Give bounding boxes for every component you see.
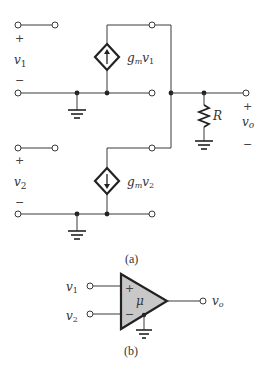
input-port-1: + v1 − bbox=[14, 22, 58, 87]
figure-b-caption: (b) bbox=[124, 344, 138, 358]
port2-top-right-terminal bbox=[52, 145, 58, 151]
figure-a-caption: (a) bbox=[125, 252, 138, 266]
port1-top-right-terminal bbox=[52, 22, 58, 28]
output-plus-sign: + bbox=[243, 100, 252, 113]
output-voltage-label: vo bbox=[242, 115, 255, 130]
port1-bottom-right-terminal bbox=[149, 90, 155, 96]
amp-input1-label: v1 bbox=[66, 280, 78, 295]
port1-minus-sign: − bbox=[15, 74, 24, 87]
amp-gain-label: μ bbox=[136, 294, 144, 308]
ground-symbol-2 bbox=[68, 214, 86, 239]
amp-output-terminal bbox=[200, 298, 206, 304]
source2-node bbox=[105, 212, 110, 217]
source2-label: gmv2 bbox=[127, 175, 154, 190]
amp-input1-terminal bbox=[87, 283, 93, 289]
port1-top-left-terminal bbox=[15, 22, 21, 28]
port1-voltage-label: v1 bbox=[14, 53, 27, 69]
port1-plus-sign: + bbox=[15, 32, 24, 45]
amp-input2-label: v2 bbox=[66, 309, 78, 324]
dependent-current-source-2 bbox=[95, 168, 119, 194]
resistor bbox=[195, 93, 213, 149]
port2-bottom-right-terminal bbox=[149, 211, 155, 217]
amp-output-label: vo bbox=[212, 294, 224, 309]
source2-top-terminal bbox=[149, 145, 155, 151]
dependent-current-source-1 bbox=[95, 44, 119, 70]
amp-plus-sign: + bbox=[125, 282, 134, 295]
port2-plus-sign: + bbox=[15, 154, 24, 167]
ground-symbol-1 bbox=[68, 93, 86, 118]
figure-b: v1 v2 + − μ vo (b) bbox=[66, 274, 224, 358]
circuit-diagram: + v1 − gmv1 bbox=[0, 0, 264, 374]
amp-minus-sign: − bbox=[125, 308, 134, 321]
port1-bottom-left-terminal bbox=[15, 90, 21, 96]
amp-input2-terminal bbox=[87, 311, 93, 317]
output-minus-sign: − bbox=[243, 138, 252, 151]
port2-bottom-left-terminal bbox=[15, 211, 21, 217]
source1-top-terminal bbox=[149, 22, 155, 28]
port2-voltage-label: v2 bbox=[14, 175, 27, 191]
input-port-2: + v2 − bbox=[14, 145, 58, 209]
output-terminal bbox=[243, 90, 249, 96]
figure-a: + v1 − gmv1 bbox=[14, 22, 255, 266]
resistor-label: R bbox=[212, 109, 222, 123]
port2-minus-sign: − bbox=[15, 196, 24, 209]
port2-top-left-terminal bbox=[15, 145, 21, 151]
source1-label: gmv1 bbox=[127, 51, 154, 66]
